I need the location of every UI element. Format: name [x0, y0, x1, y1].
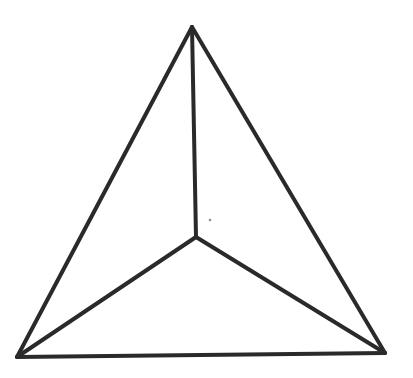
edge-top-left [17, 27, 192, 357]
edge-top-center [192, 27, 196, 237]
stray-dot [209, 219, 211, 221]
tetrahedron-svg [0, 0, 413, 378]
edge-right-center [196, 237, 385, 353]
tetrahedron-drawing [0, 0, 413, 378]
edge-left-center [17, 237, 196, 357]
edge-left-right [17, 353, 385, 357]
edge-top-right [192, 27, 385, 353]
